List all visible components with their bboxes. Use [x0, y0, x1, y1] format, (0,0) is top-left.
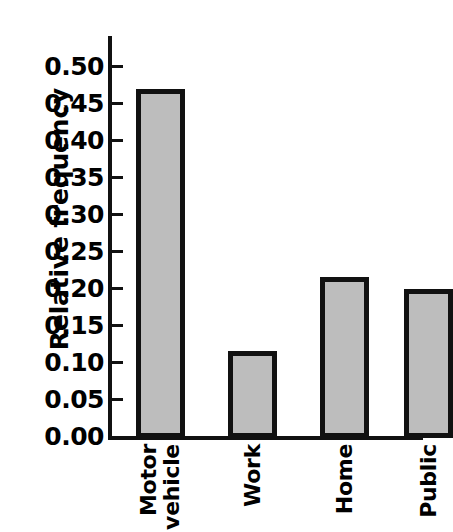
x-axis-category-label-line: Home	[334, 444, 356, 514]
y-axis-tick-label: 0.05	[44, 385, 104, 414]
y-axis-tick-mark	[112, 176, 123, 179]
y-axis-tick-label: 0.35	[44, 163, 104, 192]
y-axis-tick-mark	[112, 213, 123, 216]
bar	[136, 89, 185, 438]
y-axis-tick-mark	[112, 139, 123, 142]
x-axis-category-label-line: Motor	[138, 444, 160, 516]
x-axis-category-label: Home	[320, 444, 369, 532]
y-axis-tick-mark	[112, 102, 123, 105]
y-axis-tick-mark	[112, 361, 123, 364]
y-axis-line	[108, 36, 112, 438]
x-axis-category-label: Public	[404, 444, 453, 532]
bar	[228, 351, 277, 438]
plot-area	[108, 36, 423, 440]
x-axis-category-label: Motorvehicle	[136, 444, 185, 532]
y-axis-tick-label: 0.15	[44, 311, 104, 340]
y-axis-tick-label: 0.00	[44, 422, 104, 451]
y-axis-tick-mark	[112, 287, 123, 290]
y-axis-tick-label: 0.30	[44, 200, 104, 229]
x-axis-category-label: Work	[228, 444, 277, 532]
x-axis-category-label-line: Work	[242, 444, 264, 507]
y-axis-tick-mark	[112, 250, 123, 253]
x-axis-category-label-line: vehicle	[161, 444, 183, 530]
y-axis-tick-mark	[112, 398, 123, 401]
y-axis-tick-label: 0.10	[44, 348, 104, 377]
y-axis-tick-labels: 0.000.050.100.150.200.250.300.350.400.45…	[44, 0, 104, 532]
y-axis-tick-mark	[112, 324, 123, 327]
y-axis-tick-label: 0.40	[44, 126, 104, 155]
x-axis-category-labels: MotorvehicleWorkHomePublic	[108, 444, 423, 532]
bar	[320, 277, 369, 438]
bar	[404, 289, 453, 438]
y-axis-tick-label: 0.45	[44, 89, 104, 118]
x-axis-category-label-line: Public	[418, 444, 440, 518]
y-axis-tick-mark	[112, 65, 123, 68]
y-axis-tick-label: 0.25	[44, 237, 104, 266]
y-axis-tick-label: 0.20	[44, 274, 104, 303]
y-axis-tick-label: 0.50	[44, 52, 104, 81]
